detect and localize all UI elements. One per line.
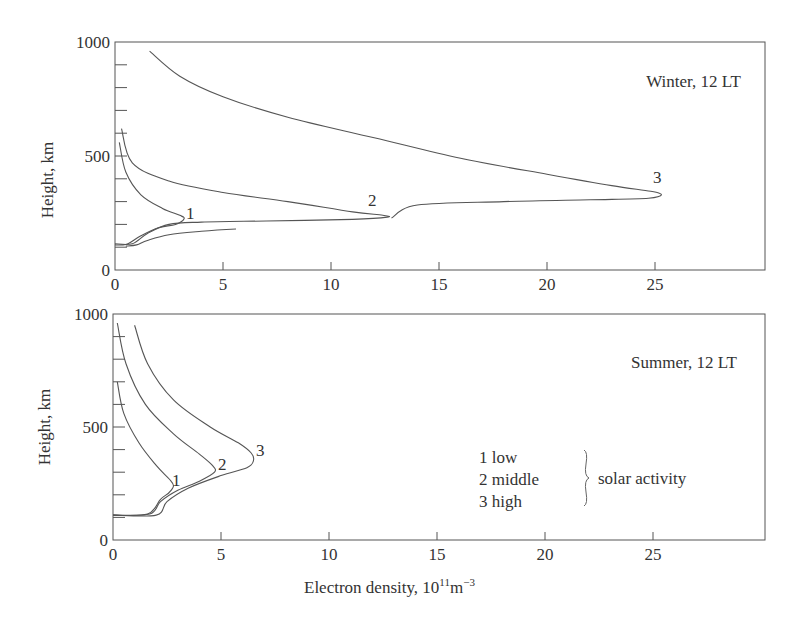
summer-curve-label-1: 1	[172, 471, 181, 490]
x-tick-label: 5	[219, 275, 228, 294]
y-tick-label: 0	[100, 531, 109, 550]
x-tick-label: 0	[111, 275, 120, 294]
summer-curves	[113, 323, 254, 516]
y-tick-label: 500	[85, 147, 111, 166]
x-tick-label: 25	[647, 275, 664, 294]
winter-x-ticks: 0510152025	[111, 262, 664, 294]
legend-group-label: solar activity	[598, 469, 687, 488]
y-tick-label: 1000	[74, 305, 108, 324]
summer-panel: 05001000 0510152025 Summer, 12 LT 1 2 3 …	[35, 305, 765, 564]
x-tick-label: 20	[537, 545, 554, 564]
summer-y-axis-label: Height, km	[35, 389, 54, 466]
summer-title: Summer, 12 LT	[631, 353, 738, 372]
x-tick-label: 25	[645, 545, 662, 564]
curve-2	[115, 129, 390, 245]
x-tick-label: 15	[429, 545, 446, 564]
figure: 05001000 0510152025 Winter, 12 LT 1 2 3 …	[0, 0, 791, 632]
y-tick-label: 0	[102, 261, 111, 280]
winter-y-axis-label: Height, km	[38, 142, 57, 219]
legend-item-low: 1 low	[479, 448, 518, 467]
curve-1	[115, 142, 184, 245]
x-tick-label: 10	[323, 275, 340, 294]
winter-y-ticks: 05001000	[76, 33, 127, 280]
winter-curves	[115, 51, 662, 246]
x-tick-label: 5	[217, 545, 226, 564]
winter-curve-label-1: 1	[186, 204, 195, 223]
y-tick-label: 1000	[76, 33, 110, 52]
summer-curve-label-3: 3	[256, 441, 265, 460]
summer-y-ticks: 05001000	[74, 305, 125, 550]
legend-brace	[584, 450, 589, 506]
y-tick-label: 500	[83, 418, 109, 437]
legend-item-high: 3 high	[479, 492, 522, 511]
x-tick-label: 20	[539, 275, 556, 294]
winter-curve-label-3: 3	[653, 168, 662, 187]
winter-curve-label-2: 2	[368, 191, 377, 210]
x-tick-label: 15	[431, 275, 448, 294]
summer-x-ticks: 0510152025	[109, 532, 662, 564]
x-tick-label: 10	[321, 545, 338, 564]
curve-2	[113, 323, 215, 515]
x-axis-label: Electron density, 1011m−3	[304, 576, 475, 597]
x-tick-label: 0	[109, 545, 118, 564]
summer-curve-label-2: 2	[218, 455, 227, 474]
winter-panel: 05001000 0510152025 Winter, 12 LT 1 2 3 …	[38, 33, 765, 294]
legend-item-middle: 2 middle	[479, 470, 539, 489]
winter-title: Winter, 12 LT	[646, 72, 741, 91]
legend: 1 low 2 middle 3 high solar activity	[479, 448, 687, 511]
